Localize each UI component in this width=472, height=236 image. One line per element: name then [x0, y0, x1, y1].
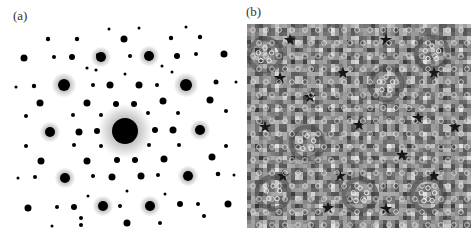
diffraction-spot [79, 216, 83, 220]
diffraction-spot [176, 111, 180, 115]
panel-a-diffraction-pattern: (a) [0, 0, 240, 236]
diffraction-spot [79, 223, 83, 227]
diffraction-spot [144, 51, 154, 61]
diffraction-spot [225, 201, 232, 208]
diffraction-spot [113, 101, 119, 107]
diffraction-spot [55, 205, 59, 209]
diffraction-spot [112, 118, 138, 144]
diffraction-spot [72, 143, 76, 147]
diffraction-spot [158, 221, 162, 225]
diffraction-spot [132, 157, 138, 163]
diffraction-spot [25, 205, 32, 212]
diffraction-spot [94, 128, 100, 134]
diffraction-spot [196, 202, 200, 206]
diffraction-pattern-image [0, 0, 240, 236]
diffraction-spot [99, 113, 103, 117]
diffraction-spot [145, 201, 155, 211]
diffraction-spot [170, 127, 177, 134]
diffraction-spot [99, 144, 103, 148]
panel-b-hrtem-image: (b) [240, 0, 472, 236]
diffraction-spot [161, 65, 164, 68]
diffraction-spot [131, 101, 137, 107]
diffraction-spot [152, 127, 158, 133]
diffraction-spot [96, 53, 100, 57]
diffraction-spot [87, 195, 90, 198]
diffraction-spot [91, 174, 95, 178]
diffraction-spot [136, 82, 143, 89]
diffraction-spot [32, 84, 36, 88]
diffraction-spot [185, 26, 188, 29]
diffraction-spot [52, 55, 56, 59]
diffraction-spot [71, 113, 75, 117]
diffraction-spot [21, 55, 28, 62]
diffraction-spot [138, 27, 141, 30]
diffraction-spot [84, 158, 91, 165]
diffraction-spot [164, 193, 167, 196]
diffraction-spot [109, 174, 116, 181]
diffraction-spot [51, 225, 54, 228]
diffraction-spot [69, 54, 75, 60]
diffraction-spot [235, 81, 238, 84]
diffraction-spot [94, 68, 97, 71]
diffraction-spot [124, 73, 127, 76]
diffraction-spot [84, 100, 91, 107]
diffraction-spot [216, 172, 221, 177]
diffraction-spot [180, 79, 192, 91]
diffraction-spot [174, 53, 180, 59]
diffraction-spot [194, 52, 198, 56]
diffraction-spot [17, 177, 20, 180]
diffraction-spot [138, 173, 145, 180]
diffraction-spot [146, 111, 150, 115]
diffraction-spot [161, 156, 168, 163]
diffraction-spot [171, 71, 174, 74]
diffraction-spot [156, 173, 160, 177]
diffraction-spot [45, 127, 55, 137]
diffraction-spot [71, 204, 77, 210]
diffraction-spot [15, 86, 18, 89]
diffraction-spot [38, 158, 45, 165]
diffraction-spot [198, 35, 202, 39]
diffraction-spot [121, 36, 128, 43]
diffraction-spot [183, 171, 193, 181]
diffraction-spot [24, 114, 28, 118]
diffraction-spot [91, 83, 95, 87]
diffraction-spot [169, 36, 173, 40]
diffraction-spot [214, 80, 219, 85]
diffraction-spot [177, 201, 183, 207]
diffraction-spot [76, 129, 83, 136]
diffraction-spot [224, 109, 228, 113]
diffraction-spot [118, 204, 122, 208]
diffraction-spot [24, 144, 28, 148]
diffraction-spot [221, 51, 228, 58]
diffraction-spot [177, 143, 181, 147]
diffraction-spot [207, 97, 214, 104]
quasicrystal-lattice-image [240, 0, 472, 236]
diffraction-spot [108, 28, 111, 31]
diffraction-spot [160, 98, 167, 105]
diffraction-spot [37, 100, 44, 107]
diffraction-spot [195, 125, 205, 135]
diffraction-spot [114, 157, 120, 163]
diffraction-spot [46, 37, 50, 41]
diffraction-spot [33, 175, 37, 179]
diffraction-spot [60, 173, 70, 183]
diffraction-spot [75, 37, 79, 41]
diffraction-spot [124, 220, 131, 227]
diffraction-spot [209, 154, 216, 161]
diffraction-spot [202, 214, 206, 218]
diffraction-spot [58, 79, 70, 91]
diffraction-spot [128, 54, 132, 58]
diffraction-spot [147, 143, 151, 147]
diffraction-spot [107, 82, 114, 89]
diffraction-spot [98, 201, 108, 211]
diffraction-spot [233, 174, 236, 177]
diffraction-spot [126, 190, 129, 193]
diffraction-spot [155, 83, 159, 87]
diffraction-spot [224, 144, 228, 148]
diffraction-spot [85, 66, 88, 69]
